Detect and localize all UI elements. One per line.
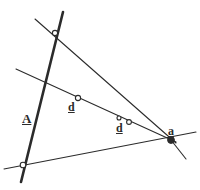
label-d1: d bbox=[68, 101, 75, 113]
top-intersection bbox=[52, 30, 57, 35]
point-d2-outer bbox=[127, 120, 132, 125]
geometry-figure: Adda bbox=[0, 0, 200, 190]
point-d2-inner bbox=[117, 116, 121, 120]
label-A: A bbox=[22, 112, 31, 125]
bottom-left-intersection bbox=[20, 162, 26, 168]
figure-canvas bbox=[0, 0, 200, 190]
point-d1 bbox=[75, 95, 80, 100]
label-d2: d bbox=[116, 122, 123, 134]
figure-background bbox=[0, 0, 200, 190]
label-a: a bbox=[168, 125, 174, 137]
